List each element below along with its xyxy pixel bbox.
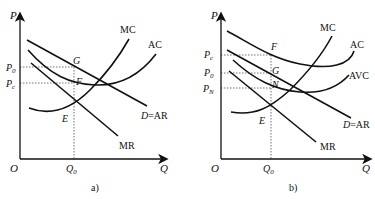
ac-curve <box>28 50 156 85</box>
pn-label: PN <box>202 83 214 96</box>
demand-label: D=AR <box>140 110 168 121</box>
ac-label: AC <box>148 39 162 50</box>
avc-label: AVC <box>349 70 369 81</box>
mr-label: MR <box>119 140 135 151</box>
x-axis-label: Q <box>362 162 370 174</box>
mc-label: MC <box>320 22 336 33</box>
demand-curve <box>27 40 147 106</box>
panel-b: P Q O Pc P0 PN Q0 MC AC AVC D=AR MR F G … <box>202 9 370 194</box>
mc-curve <box>231 36 332 113</box>
point-g: G <box>73 55 80 66</box>
point-g: G <box>272 65 279 76</box>
panel-b-caption: b) <box>289 182 297 194</box>
pc-label: Pc <box>5 78 16 91</box>
q0-label: Q0 <box>66 163 77 176</box>
y-axis-label: P <box>9 9 17 21</box>
point-e: E <box>258 115 265 126</box>
point-n: N <box>271 79 280 90</box>
p0-label: P0 <box>5 62 16 75</box>
mr-label: MR <box>320 141 336 152</box>
origin-label: O <box>211 162 219 174</box>
point-e: E <box>61 113 68 124</box>
origin-label: O <box>10 162 18 174</box>
cost-revenue-diagram: P Q O P0 Pc Q0 MC AC D=AR MR G F E a) P … <box>0 0 375 199</box>
mc-label: MC <box>120 24 136 35</box>
panel-a: P Q O P0 Pc Q0 MC AC D=AR MR G F E a) <box>5 9 168 194</box>
demand-label: D=AR <box>342 119 370 130</box>
point-f: F <box>75 76 83 87</box>
pc-label: Pc <box>203 49 214 62</box>
point-f: F <box>270 41 278 52</box>
q0-label: Q0 <box>263 163 274 176</box>
ac-label: AC <box>350 39 364 50</box>
diagram-canvas: P Q O P0 Pc Q0 MC AC D=AR MR G F E a) P … <box>0 0 375 199</box>
y-axis-label: P <box>210 9 218 21</box>
panel-a-caption: a) <box>91 182 99 194</box>
p0-label: P0 <box>203 67 214 80</box>
x-axis-label: Q <box>160 162 168 174</box>
